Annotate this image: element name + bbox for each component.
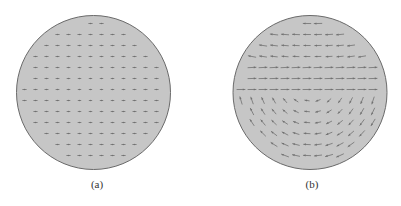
disk [233, 16, 387, 170]
caption-b: (b) [292, 178, 332, 190]
disk [17, 16, 171, 170]
vector-field-plot-b [200, 0, 401, 206]
panel-b: (b) [200, 0, 400, 206]
caption-a: (a) [77, 178, 117, 190]
vector-field-plot-a [0, 0, 200, 206]
panel-a: (a) [0, 0, 200, 206]
